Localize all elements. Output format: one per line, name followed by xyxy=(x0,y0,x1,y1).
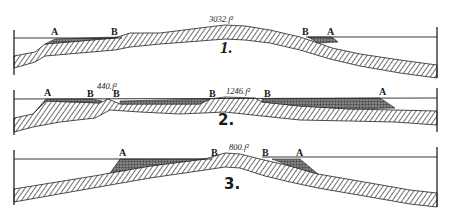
section-3-elevation-label: 800.f² xyxy=(229,142,249,152)
section-2-label-b-4: B xyxy=(264,88,271,99)
section-2-deposit-middle xyxy=(120,99,210,104)
section-3: A B B A 800.f² 3. xyxy=(14,142,437,207)
section-1-elevation-label: 3032.f² xyxy=(208,14,233,24)
valley-cross-sections-figure: A B B A 3032.f² 1. A B B B B A 440.f² 12… xyxy=(0,0,453,216)
section-2: A B B B B A 440.f² 1246.f² 2. xyxy=(14,81,437,135)
section-2-label-b-1: B xyxy=(87,88,94,99)
section-3-label-a-right: A xyxy=(296,147,304,158)
section-1-number: 1. xyxy=(220,38,233,57)
section-1-label-a-left: A xyxy=(51,26,59,37)
section-2-label-a-left: A xyxy=(44,87,52,98)
section-1-label-b-right: B xyxy=(302,26,309,37)
section-3-number: 3. xyxy=(224,175,240,193)
section-2-elevation-label-left: 440.f² xyxy=(97,81,117,91)
section-1-label-a-right: A xyxy=(327,26,335,37)
section-3-label-a-left: A xyxy=(119,147,127,158)
section-3-label-b-right: B xyxy=(262,147,269,158)
section-2-number: 2. xyxy=(218,111,234,129)
section-2-elevation-label-right: 1246.f² xyxy=(226,86,250,96)
section-2-label-b-3: B xyxy=(209,88,216,99)
section-3-label-b-left: B xyxy=(211,147,218,158)
section-2-label-a-right: A xyxy=(379,86,387,97)
section-1-label-b-left: B xyxy=(111,26,118,37)
section-1: A B B A 3032.f² 1. xyxy=(14,14,437,78)
